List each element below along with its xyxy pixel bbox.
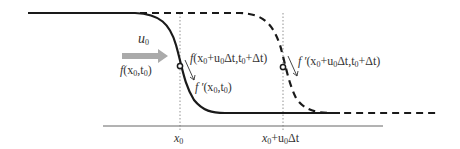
args: (x xyxy=(203,80,213,94)
tick-label-x0-shift: x0+u0Δt xyxy=(262,132,299,146)
end: +Δt) xyxy=(359,54,381,68)
args: (x xyxy=(193,51,203,65)
label-fprime-x0-t0: f ′(x0,t0) xyxy=(195,81,232,95)
end: ) xyxy=(228,80,232,94)
dt: Δt,t xyxy=(337,54,354,68)
dt: Δt xyxy=(288,131,299,145)
advection-diagram xyxy=(0,0,460,149)
end: +Δt) xyxy=(246,51,268,65)
sub: 0 xyxy=(179,137,183,146)
velocity-arrow xyxy=(122,49,168,63)
dt: Δt,t xyxy=(224,51,241,65)
plus: +u xyxy=(207,51,220,65)
end: ) xyxy=(148,63,152,77)
label-fprime-shift: f ′(x0+u0Δt,t0+Δt) xyxy=(298,55,380,69)
initial-profile-curve xyxy=(28,13,340,113)
args: (x xyxy=(306,54,316,68)
derivative-arrow-2 xyxy=(288,56,298,76)
tick-label-x0: x0 xyxy=(174,132,183,146)
plus: +u xyxy=(271,131,284,145)
velocity-label: u0 xyxy=(138,32,149,47)
point-x0-shift xyxy=(280,64,285,69)
point-x0-t0 xyxy=(177,63,182,68)
velocity-symbol: u xyxy=(138,31,145,46)
plus: +u xyxy=(320,54,333,68)
shifted-profile-curve xyxy=(140,13,440,113)
label-f-x0-t0: f(x0,t0) xyxy=(120,64,152,78)
args: (x xyxy=(123,63,133,77)
velocity-subscript: 0 xyxy=(145,38,149,47)
label-f-shift: f(x0+u0Δt,t0+Δt) xyxy=(190,52,267,66)
